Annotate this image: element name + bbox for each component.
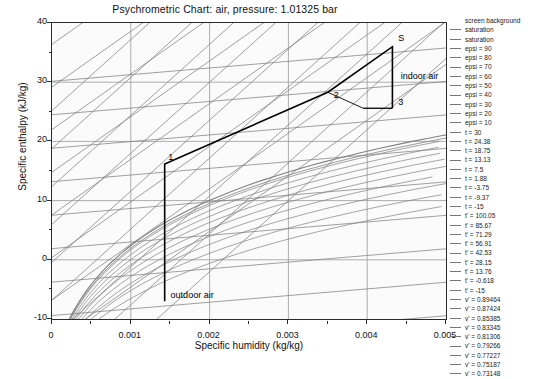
legend-swatch bbox=[450, 364, 461, 365]
legend-label: t' = 28.15 bbox=[465, 258, 492, 267]
x-minor-tick bbox=[406, 321, 407, 324]
legend-item: saturation bbox=[450, 35, 534, 44]
legend-item: v' = 0.89464 bbox=[450, 295, 534, 304]
legend-item: v' = 0.75187 bbox=[450, 360, 534, 369]
x-tick-mark bbox=[209, 320, 210, 324]
legend-item: epsi = 20 bbox=[450, 109, 534, 118]
legend-swatch bbox=[450, 234, 461, 235]
saturation-curve bbox=[69, 133, 446, 319]
x-axis-label: Specific humidity (kg/kg) bbox=[51, 340, 447, 351]
legend-item: epsi = 50 bbox=[450, 81, 534, 90]
legend-label: t' = 42.53 bbox=[465, 248, 492, 257]
legend-item: t' = 13.76 bbox=[450, 267, 534, 276]
legend-item: v' = 0.77227 bbox=[450, 351, 534, 360]
wet-bulb-line bbox=[52, 23, 446, 87]
dry-bulb-line-t-18.75 bbox=[52, 115, 446, 148]
legend-label: t' = 13.76 bbox=[465, 267, 492, 276]
x-tick-mark bbox=[366, 320, 367, 324]
annotation-2: 2 bbox=[334, 90, 339, 100]
specific-volume-line bbox=[52, 59, 446, 319]
legend-label: t = 24.38 bbox=[465, 137, 490, 146]
legend-swatch bbox=[450, 299, 461, 300]
legend-label: epsi = 70 bbox=[465, 62, 492, 71]
legend-label: epsi = 20 bbox=[465, 109, 492, 118]
specific-volume-line bbox=[52, 23, 446, 262]
rh-line-epsi-80 bbox=[72, 147, 438, 319]
legend-swatch bbox=[450, 225, 461, 226]
legend-label: v' = 0.87424 bbox=[465, 304, 500, 313]
legend-item: saturation bbox=[450, 25, 534, 34]
legend-label: v' = 0.81306 bbox=[465, 332, 500, 341]
legend-item: t' = 56.91 bbox=[450, 239, 534, 248]
annotation-s: S bbox=[398, 33, 404, 43]
legend-swatch bbox=[450, 160, 461, 161]
legend-item: epsi = 60 bbox=[450, 72, 534, 81]
legend-label: t = -15 bbox=[465, 202, 484, 211]
legend-swatch bbox=[450, 243, 461, 244]
legend-swatch bbox=[450, 318, 461, 319]
legend-swatch bbox=[450, 206, 461, 207]
legend-label: epsi = 50 bbox=[465, 81, 492, 90]
legend-label: epsi = 40 bbox=[465, 90, 492, 99]
specific-volume-line bbox=[52, 23, 446, 186]
legend-label: t = 30 bbox=[465, 128, 481, 137]
legend-label: t = 7.5 bbox=[465, 165, 483, 174]
legend-item: v' = 0.83345 bbox=[450, 323, 534, 332]
legend-item: epsi = 40 bbox=[450, 90, 534, 99]
legend-label: epsi = 30 bbox=[465, 100, 492, 109]
legend-item: t = 30 bbox=[450, 128, 534, 137]
x-minor-tick bbox=[90, 321, 91, 324]
x-minor-tick bbox=[327, 321, 328, 324]
dry-bulb-line-t-13.13 bbox=[52, 148, 446, 181]
legend-item: t = 24.38 bbox=[450, 137, 534, 146]
legend-item: t' = -0.618 bbox=[450, 276, 534, 285]
legend-item: t' = 42.53 bbox=[450, 248, 534, 257]
legend-label: saturation bbox=[465, 35, 494, 44]
legend-swatch bbox=[450, 29, 461, 30]
legend-swatch bbox=[450, 104, 461, 105]
plot-curves bbox=[52, 23, 446, 319]
x-tick-label: 0.001 bbox=[107, 330, 153, 340]
x-tick-mark bbox=[445, 320, 446, 324]
legend-swatch bbox=[450, 336, 461, 337]
legend-swatch bbox=[450, 290, 461, 291]
legend-item: v' = 0.79266 bbox=[450, 341, 534, 350]
legend-swatch bbox=[450, 308, 461, 309]
legend-item: epsi = 10 bbox=[450, 118, 534, 127]
legend-label: t' = 56.91 bbox=[465, 239, 492, 248]
dry-bulb-line-t-30 bbox=[52, 48, 446, 81]
annotation-1: 1 bbox=[168, 152, 173, 162]
legend-swatch bbox=[450, 262, 461, 263]
x-tick-label: 0 bbox=[28, 330, 74, 340]
legend-swatch bbox=[450, 178, 461, 179]
plot-area: 123Sindoor airoutdoor air bbox=[51, 22, 447, 320]
rh-line-epsi-60 bbox=[76, 159, 444, 319]
legend-item: epsi = 80 bbox=[450, 53, 534, 62]
legend-swatch bbox=[450, 20, 461, 21]
legend-label: t = 1.88 bbox=[465, 174, 487, 183]
legend-label: t' = 85.67 bbox=[465, 221, 492, 230]
rh-line-epsi-30 bbox=[86, 183, 446, 319]
legend-item: t = -15 bbox=[450, 202, 534, 211]
legend-label: screen background bbox=[465, 16, 520, 25]
legend-item: v' = 0.85385 bbox=[450, 314, 534, 323]
dry-bulb-line-t-1.88 bbox=[52, 215, 446, 248]
legend-swatch bbox=[450, 150, 461, 151]
legend-item: epsi = 90 bbox=[450, 44, 534, 53]
legend-swatch bbox=[450, 327, 461, 328]
legend-item: t' = 100.05 bbox=[450, 211, 534, 220]
legend-swatch bbox=[450, 113, 461, 114]
legend-label: t = -9.37 bbox=[465, 193, 489, 202]
dry-bulb-line-t--15 bbox=[52, 316, 446, 319]
annotation-indoor-air: indoor air bbox=[401, 71, 439, 81]
legend-swatch bbox=[450, 187, 461, 188]
legend-label: saturation bbox=[465, 25, 494, 34]
legend: screen backgroundsaturationsaturationeps… bbox=[450, 16, 534, 316]
dry-bulb-line-t--9.37 bbox=[52, 282, 446, 315]
legend-swatch bbox=[450, 57, 461, 58]
legend-swatch bbox=[450, 76, 461, 77]
legend-swatch bbox=[450, 271, 461, 272]
legend-item: epsi = 30 bbox=[450, 100, 534, 109]
legend-swatch bbox=[450, 346, 461, 347]
x-tick-mark bbox=[51, 320, 52, 324]
